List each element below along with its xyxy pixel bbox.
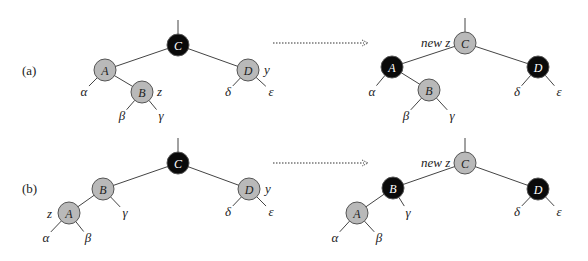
subtree-label: β [84,230,92,245]
case-1-after-tree: αβγδεCABDnew z [369,18,563,123]
tree-node-a: A [58,202,80,224]
tree-edge [105,45,178,70]
node-key: D [533,61,543,75]
tree-node-c: C [167,152,189,174]
subtree-edge [376,75,384,85]
node-key: A [387,61,396,75]
subtree-edge [340,221,350,232]
tree-node-a: A [381,56,403,78]
subtree-label: ε [556,204,562,219]
case-label: (b) [22,181,37,196]
subtree-label: β [375,230,383,245]
tree-node-a: A [94,59,116,81]
tree-node-c: C [167,34,189,56]
node-key: C [461,37,470,51]
node-key: C [174,39,183,53]
subtree-edge [436,98,447,110]
subtree-edge [111,197,121,207]
case-2-after-tree: γαβδεCBADnew z [332,138,563,245]
subtree-label: δ [225,84,232,99]
subtree-edge [127,100,135,109]
subtree-edge [256,77,266,86]
subtree-edge [89,78,97,86]
subtree-label: γ [405,205,411,220]
subtree-label: γ [122,205,128,220]
subtree-label: δ [514,84,521,99]
tree-node-b: B [382,177,404,199]
red-black-tree-insert-case1-diagram: (a)αβγδεCABDzyαβγδεCABDnew z(b)γαβδεCBAD… [0,0,588,261]
subtree-edge [522,197,531,206]
subtree-edge [76,222,84,232]
subtree-edge [545,75,554,85]
node-key: D [243,64,253,78]
node-key: A [100,64,109,78]
node-key: C [461,157,470,171]
subtree-edge [233,197,242,206]
subtree-label: δ [514,204,521,219]
pointer-annotation: z [156,84,162,99]
tree-node-d: D [527,56,549,78]
tree-edge [465,163,538,189]
tree-node-d: D [527,178,549,200]
node-key: B [425,84,433,98]
subtree-edge [51,221,62,232]
subtree-label: ε [268,84,274,99]
tree-edge [465,43,538,67]
subtree-label: α [43,230,51,245]
node-key: B [389,182,397,196]
tree-node-d: D [237,59,259,81]
pointer-annotation: new z [421,35,450,50]
tree-node-c: C [454,152,476,174]
node-key: B [138,86,146,100]
node-key: A [352,207,361,221]
node-key: D [533,183,543,197]
case-1-before-tree: αβγδεCABDzy [81,20,275,123]
node-key: A [64,207,73,221]
subtree-edge [546,197,555,206]
subtree-edge [522,75,531,85]
pointer-annotation: z [46,206,52,221]
tree-node-b: B [92,178,114,200]
subtree-label: ε [556,84,562,99]
node-key: C [174,157,183,171]
subtree-label: α [332,230,340,245]
tree-node-c: C [454,32,476,54]
node-key: D [244,183,254,197]
subtree-edge [364,221,374,232]
case-label: (a) [22,63,36,78]
tree-node-a: A [346,202,368,224]
node-key: B [99,183,107,197]
tree-node-b: B [131,81,153,103]
subtree-label: γ [449,108,455,123]
arrow-head-icon [362,160,368,166]
subtree-label: β [118,108,126,123]
pointer-annotation: y [263,181,271,196]
subtree-label: α [81,84,89,99]
transform-arrow [273,160,368,166]
subtree-edge [233,78,241,86]
arrow-head-icon [362,40,368,46]
subtree-label: ε [268,204,274,219]
pointer-annotation: y [262,62,270,77]
subtree-label: δ [225,204,232,219]
subtree-edge [149,100,157,109]
tree-edge [103,163,178,189]
transform-arrow [273,40,368,46]
subtree-edge [399,197,404,206]
pointer-annotation: new z [421,155,450,170]
subtree-label: γ [158,108,164,123]
subtree-label: β [402,108,410,123]
tree-node-b: B [418,79,440,101]
subtree-label: α [369,84,377,99]
case-2-before-tree: γαβδεCBADzy [43,138,275,245]
subtree-edge [411,98,422,110]
tree-node-d: D [238,178,260,200]
subtree-edge [257,197,266,206]
